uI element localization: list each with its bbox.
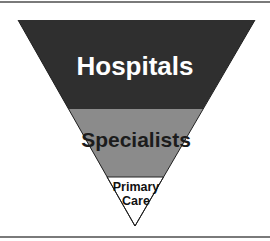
tier-primary-care-label: Primary Care — [111, 180, 161, 208]
tier-primary-care-label-line2: Care — [111, 194, 161, 208]
tier-primary-care-label-line1: Primary — [111, 180, 161, 194]
bottom-divider-line — [0, 236, 270, 238]
tier-hospitals-label: Hospitals — [0, 53, 270, 79]
tier-specialists-label: Specialists — [0, 129, 270, 150]
